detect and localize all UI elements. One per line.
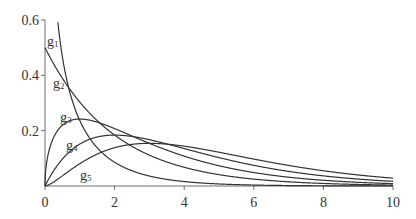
series-g2-line — [45, 48, 393, 185]
curves — [45, 22, 393, 186]
x-tick-label: 10 — [386, 195, 400, 210]
curve-label-g1: g1 — [47, 34, 59, 49]
curve-label-g5: g5 — [80, 168, 92, 183]
x-tick-label: 2 — [111, 195, 118, 210]
y-tick-label: 0.6 — [22, 13, 40, 28]
x-tick-label: 6 — [250, 195, 257, 210]
y-tick-label: 0.4 — [22, 68, 40, 83]
x-tick-label: 0 — [42, 195, 49, 210]
series-g4-line — [45, 135, 393, 186]
series-g5-line — [45, 143, 393, 186]
axes — [45, 20, 393, 186]
x-tick-label: 8 — [320, 195, 327, 210]
ticks: 02468100.20.40.6 — [22, 13, 401, 210]
y-tick-label: 0.2 — [22, 124, 40, 139]
curve-label-g3: g3 — [60, 110, 72, 125]
series-g1-line — [58, 22, 393, 186]
x-tick-label: 4 — [181, 195, 188, 210]
chart: 02468100.20.40.6 g1g2g3g4g5 — [0, 0, 416, 219]
curve-label-g4: g4 — [66, 138, 78, 153]
